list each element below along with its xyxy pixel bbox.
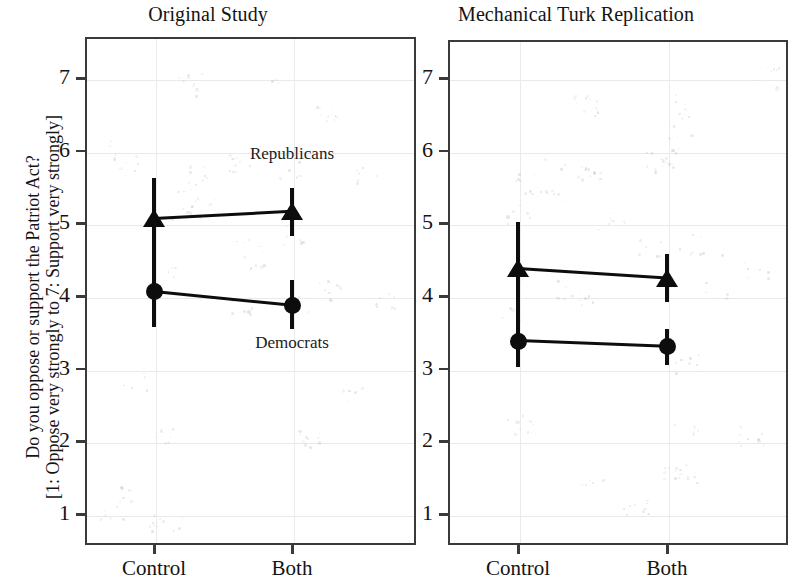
scan-artifact-speckle [125, 162, 126, 163]
gridline-horizontal [87, 80, 414, 81]
scan-artifact-speckle [679, 473, 682, 476]
y-axis-tick [439, 440, 448, 443]
scan-artifact-speckle [249, 313, 250, 314]
scan-artifact-speckle [596, 100, 599, 103]
scan-artifact-speckle [675, 94, 677, 96]
scan-artifact-speckle [318, 441, 321, 444]
scan-artifact-speckle [122, 497, 125, 500]
scan-artifact-speckle [324, 289, 326, 291]
scan-artifact-speckle [121, 489, 122, 490]
scan-artifact-speckle [156, 526, 157, 527]
scan-artifact-speckle [634, 504, 636, 506]
scan-artifact-speckle [183, 191, 185, 193]
scan-artifact-speckle [544, 158, 547, 161]
scan-artifact-speckle [698, 354, 699, 355]
scan-artifact-speckle [302, 440, 305, 443]
scan-artifact-speckle [589, 480, 590, 481]
scan-artifact-speckle [686, 360, 687, 361]
x-axis-tick-label-control: Control [458, 558, 578, 579]
scan-artifact-speckle [296, 176, 299, 179]
scan-artifact-speckle [675, 152, 677, 154]
series-annotation-democrats: Democrats [255, 333, 329, 353]
scan-artifact-speckle [193, 83, 196, 86]
scan-artifact-speckle [639, 239, 642, 242]
scan-artifact-speckle [388, 293, 390, 295]
scan-artifact-speckle [109, 145, 110, 146]
scan-artifact-speckle [217, 211, 218, 212]
scan-artifact-speckle [195, 200, 196, 201]
scan-artifact-speckle [115, 154, 116, 155]
scan-artifact-speckle [135, 155, 138, 158]
scan-artifact-speckle [664, 467, 666, 469]
scan-artifact-speckle [188, 182, 190, 184]
data-point-marker-republicans [143, 209, 165, 227]
scan-artifact-speckle [669, 161, 670, 162]
scan-artifact-speckle [191, 206, 193, 208]
scan-artifact-speckle [239, 161, 241, 163]
scan-artifact-speckle [687, 478, 689, 480]
scan-artifact-speckle [582, 174, 583, 175]
scan-artifact-speckle [675, 467, 678, 470]
scan-artifact-speckle [679, 148, 681, 150]
scan-artifact-speckle [379, 297, 381, 299]
scan-artifact-speckle [181, 517, 183, 519]
scan-artifact-speckle [234, 309, 235, 310]
scan-artifact-speckle [308, 311, 310, 313]
scan-artifact-speckle [651, 152, 653, 154]
y-axis-tick-label: 1 [37, 502, 70, 524]
gridline-horizontal [450, 225, 786, 226]
scan-artifact-speckle [200, 201, 201, 202]
scan-artifact-speckle [684, 108, 687, 111]
y-axis-tick-label: 2 [400, 429, 433, 451]
scan-artifact-speckle [678, 113, 681, 116]
scan-artifact-speckle [234, 164, 237, 167]
scan-artifact-speckle [279, 177, 282, 180]
x-axis-tick [666, 545, 669, 554]
scan-artifact-speckle [286, 226, 288, 228]
scan-artifact-speckle [661, 166, 663, 168]
scan-artifact-speckle [659, 255, 662, 258]
scan-artifact-speckle [288, 169, 291, 172]
scan-artifact-speckle [546, 192, 548, 194]
scan-artifact-speckle [172, 428, 174, 430]
scan-artifact-speckle [671, 163, 673, 165]
scan-artifact-speckle [231, 158, 233, 160]
y-axis-tick [439, 513, 448, 516]
scan-artifact-speckle [613, 220, 615, 222]
scan-artifact-speckle [589, 175, 592, 178]
scan-artifact-speckle [179, 77, 181, 79]
scan-artifact-speckle [518, 173, 521, 176]
scan-artifact-speckle [757, 77, 758, 78]
scan-artifact-speckle [580, 299, 582, 301]
scan-artifact-speckle [760, 67, 761, 68]
scan-artifact-speckle [767, 271, 770, 274]
scan-artifact-speckle [645, 508, 646, 509]
scan-artifact-speckle [342, 389, 345, 392]
scan-artifact-speckle [668, 137, 671, 140]
scan-artifact-speckle [638, 253, 641, 256]
scan-artifact-speckle [236, 241, 238, 243]
scan-artifact-speckle [229, 170, 231, 172]
scan-artifact-speckle [249, 165, 252, 168]
data-point-marker-republicans [507, 259, 529, 277]
scan-artifact-speckle [170, 436, 171, 437]
scan-artifact-speckle [393, 307, 396, 310]
scan-artifact-speckle [104, 510, 106, 512]
scan-artifact-speckle [739, 434, 742, 437]
scan-artifact-speckle [565, 286, 568, 289]
y-axis-tick-label: 6 [37, 139, 70, 161]
scan-artifact-speckle [585, 484, 588, 487]
scan-artifact-speckle [116, 506, 118, 508]
scan-artifact-speckle [600, 172, 602, 174]
scan-artifact-speckle [563, 298, 565, 300]
scan-artifact-speckle [602, 479, 605, 482]
scan-artifact-speckle [255, 264, 257, 266]
scan-artifact-speckle [678, 477, 680, 479]
scan-artifact-speckle [144, 376, 147, 379]
scan-artifact-speckle [189, 165, 192, 168]
y-axis-tick-label: 5 [37, 211, 70, 233]
scan-artifact-speckle [557, 193, 560, 196]
scan-artifact-speckle [531, 193, 534, 196]
scan-artifact-speckle [672, 166, 675, 169]
